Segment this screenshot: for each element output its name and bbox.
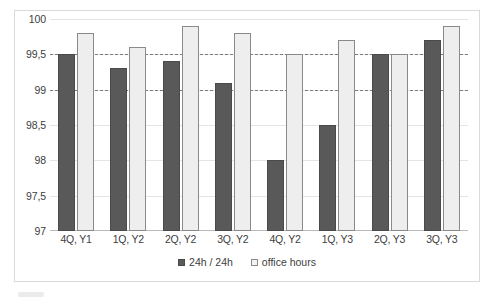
bar[interactable] <box>182 26 199 231</box>
bar[interactable] <box>372 54 389 231</box>
bar[interactable] <box>215 83 232 231</box>
bar-group <box>207 19 259 231</box>
x-axis-tick-label: 3Q, Y3 <box>416 233 468 245</box>
bar-group <box>311 19 363 231</box>
bar[interactable] <box>443 26 460 231</box>
bar[interactable] <box>338 40 355 231</box>
y-axis-tick-label: 97 <box>35 225 46 237</box>
legend-label: office hours <box>262 256 316 268</box>
plot-wrapper: 9797,59898,59999,5100 4Q, Y11Q, Y22Q, Y2… <box>15 11 479 281</box>
scan-artifact <box>18 292 44 297</box>
bar-group <box>50 19 102 231</box>
bar[interactable] <box>163 61 180 231</box>
bar[interactable] <box>391 54 408 231</box>
plot-area <box>50 19 468 231</box>
x-axis-tick-label: 1Q, Y3 <box>311 233 363 245</box>
y-axis-tick-label: 99,5 <box>26 48 46 60</box>
bar[interactable] <box>234 33 251 231</box>
bar-group <box>102 19 154 231</box>
x-axis: 4Q, Y11Q, Y22Q, Y23Q, Y24Q, Y21Q, Y32Q, … <box>50 233 468 245</box>
bar-group <box>155 19 207 231</box>
y-axis-tick-label: 97,5 <box>26 190 46 202</box>
bar-group <box>416 19 468 231</box>
bar[interactable] <box>129 47 146 231</box>
y-axis-tick-label: 98,5 <box>26 119 46 131</box>
legend-item[interactable]: office hours <box>251 256 316 268</box>
chart-container: 9797,59898,59999,5100 4Q, Y11Q, Y22Q, Y2… <box>14 10 480 282</box>
x-axis-tick-label: 4Q, Y1 <box>50 233 102 245</box>
x-axis-tick-label: 3Q, Y2 <box>207 233 259 245</box>
legend-item[interactable]: 24h / 24h <box>178 256 233 268</box>
x-axis-tick-label: 1Q, Y2 <box>102 233 154 245</box>
y-axis-tick-label: 100 <box>29 13 46 25</box>
bar[interactable] <box>58 54 75 231</box>
y-axis-tick-label: 99 <box>35 84 46 96</box>
bar[interactable] <box>319 125 336 231</box>
bar-group <box>259 19 311 231</box>
x-axis-tick-label: 2Q, Y2 <box>155 233 207 245</box>
bar[interactable] <box>267 160 284 231</box>
chart-legend: 24h / 24hoffice hours <box>15 256 479 268</box>
bar[interactable] <box>286 54 303 231</box>
legend-swatch-icon <box>251 259 258 266</box>
bar[interactable] <box>77 33 94 231</box>
y-axis-tick-label: 98 <box>35 154 46 166</box>
bar[interactable] <box>110 68 127 231</box>
bar[interactable] <box>424 40 441 231</box>
legend-swatch-icon <box>178 259 185 266</box>
bar-group <box>364 19 416 231</box>
x-axis-tick-label: 2Q, Y3 <box>364 233 416 245</box>
x-axis-tick-label: 4Q, Y2 <box>259 233 311 245</box>
y-axis: 9797,59898,59999,5100 <box>15 19 48 231</box>
bars-layer <box>50 19 468 231</box>
legend-label: 24h / 24h <box>189 256 233 268</box>
